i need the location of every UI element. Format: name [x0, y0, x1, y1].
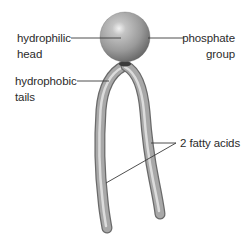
phosphate-group-label: phosphate group — [182, 30, 235, 62]
right-fatty-acid-tail — [125, 66, 160, 214]
hydrophilic-head-label-line2: head — [17, 46, 71, 62]
phospholipid-diagram: hydrophilic head phosphate group hydroph… — [0, 0, 249, 238]
fatty-acid-leader-line-left — [106, 143, 176, 183]
hydrophilic-head-label: hydrophilic head — [17, 30, 71, 62]
fatty-acids-label: 2 fatty acids — [180, 135, 240, 151]
fatty-acids-label-text: 2 fatty acids — [180, 135, 240, 151]
hydrophilic-head-label-line1: hydrophilic — [17, 30, 71, 46]
phosphate-group-label-line2: group — [182, 46, 235, 62]
hydrophobic-tails-label-line2: tails — [15, 89, 77, 105]
hydrophobic-tails-label: hydrophobic tails — [15, 73, 77, 105]
hydrophobic-tails-label-line1: hydrophobic — [15, 73, 77, 89]
left-fatty-acid-tail — [99, 66, 124, 228]
phosphate-group-label-line1: phosphate — [182, 30, 235, 46]
